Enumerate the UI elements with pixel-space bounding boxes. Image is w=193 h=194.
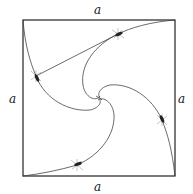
- pursuit-curve-bottom: [23, 99, 114, 176]
- pursuit-diagram: a a a a: [0, 0, 193, 194]
- bug-right-icon: [157, 114, 167, 126]
- pursuit-curve-right: [99, 85, 175, 176]
- label-bottom: a: [94, 180, 101, 194]
- line-of-sight: [36, 34, 118, 76]
- label-left: a: [9, 92, 16, 106]
- bug-left-icon: [31, 70, 41, 82]
- label-top: a: [94, 3, 101, 17]
- bug-bottom-icon: [71, 159, 83, 171]
- label-right: a: [178, 92, 185, 106]
- pursuit-curve-top: [83, 20, 175, 99]
- bug-top-icon: [112, 28, 124, 40]
